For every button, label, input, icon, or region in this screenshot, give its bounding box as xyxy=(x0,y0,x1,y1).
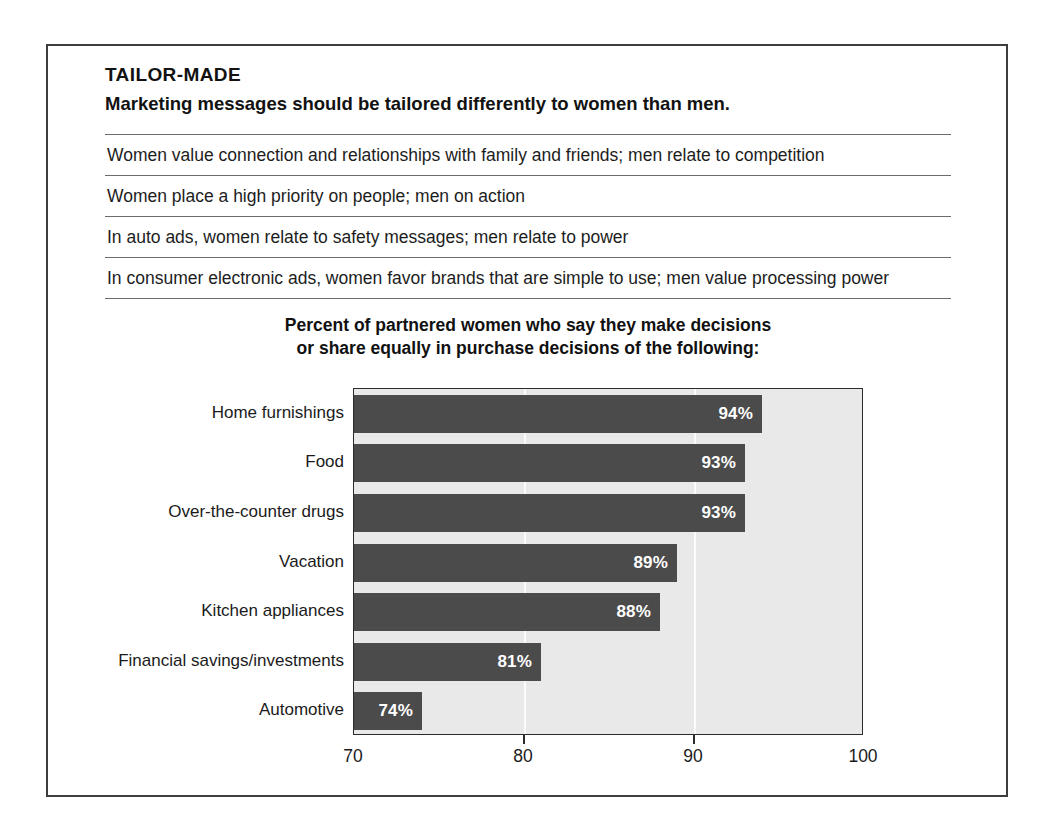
page-canvas: TAILOR-MADE Marketing messages should be… xyxy=(0,0,1055,825)
bar-chart: Home furnishingsFoodOver-the-counter dru… xyxy=(48,382,1010,782)
x-axis: 708090100 xyxy=(353,735,863,781)
x-tick-label: 80 xyxy=(513,746,532,767)
x-tick-label: 70 xyxy=(343,746,362,767)
bar-value-label: 89% xyxy=(633,553,677,573)
page-subheading: Marketing messages should be tailored di… xyxy=(105,90,951,117)
bar-row: 88% xyxy=(354,593,660,631)
bar-value-label: 94% xyxy=(718,404,762,424)
fact-row: Women value connection and relationships… xyxy=(105,134,951,175)
page-kicker: TAILOR-MADE xyxy=(105,62,951,88)
bar-6: 81% xyxy=(354,643,541,681)
x-tick-90 xyxy=(693,735,695,744)
chart-title: Percent of partnered women who say they … xyxy=(105,314,951,360)
bar-row: 94% xyxy=(354,395,762,433)
bar-4: 89% xyxy=(354,544,677,582)
bar-7: 74% xyxy=(354,692,422,730)
category-label: Home furnishings xyxy=(44,403,344,423)
category-label: Over-the-counter drugs xyxy=(44,502,344,522)
plot-area: 94%93%93%89%88%81%74% xyxy=(353,388,863,735)
bar-row: 93% xyxy=(354,494,745,532)
bar-row: 93% xyxy=(354,444,745,482)
category-label: Financial savings/investments xyxy=(44,651,344,671)
category-label: Vacation xyxy=(44,552,344,572)
x-tick-label: 90 xyxy=(683,746,702,767)
category-label: Kitchen appliances xyxy=(44,601,344,621)
fact-row: In consumer electronic ads, women favor … xyxy=(105,257,951,299)
bar-series: 94%93%93%89%88%81%74% xyxy=(354,389,862,734)
chart-title-line-2: or share equally in purchase decisions o… xyxy=(105,337,951,360)
bar-2: 93% xyxy=(354,444,745,482)
bar-row: 89% xyxy=(354,544,677,582)
category-label: Food xyxy=(44,452,344,472)
x-tick-label: 100 xyxy=(848,746,877,767)
fact-list: Women value connection and relationships… xyxy=(105,134,951,299)
bar-value-label: 81% xyxy=(497,652,541,672)
bar-value-label: 93% xyxy=(701,453,745,473)
bar-5: 88% xyxy=(354,593,660,631)
bar-3: 93% xyxy=(354,494,745,532)
fact-row: In auto ads, women relate to safety mess… xyxy=(105,216,951,257)
bar-value-label: 74% xyxy=(378,701,422,721)
fact-row: Women place a high priority on people; m… xyxy=(105,175,951,216)
header-block: TAILOR-MADE Marketing messages should be… xyxy=(105,62,951,117)
category-label: Automotive xyxy=(44,700,344,720)
x-tick-80 xyxy=(523,735,525,744)
chart-title-line-1: Percent of partnered women who say they … xyxy=(105,314,951,337)
bar-row: 74% xyxy=(354,692,422,730)
bar-1: 94% xyxy=(354,395,762,433)
bar-value-label: 88% xyxy=(616,602,660,622)
bar-row: 81% xyxy=(354,643,541,681)
bar-value-label: 93% xyxy=(701,503,745,523)
category-label-column: Home furnishingsFoodOver-the-counter dru… xyxy=(48,388,344,735)
content-frame: TAILOR-MADE Marketing messages should be… xyxy=(46,44,1008,797)
